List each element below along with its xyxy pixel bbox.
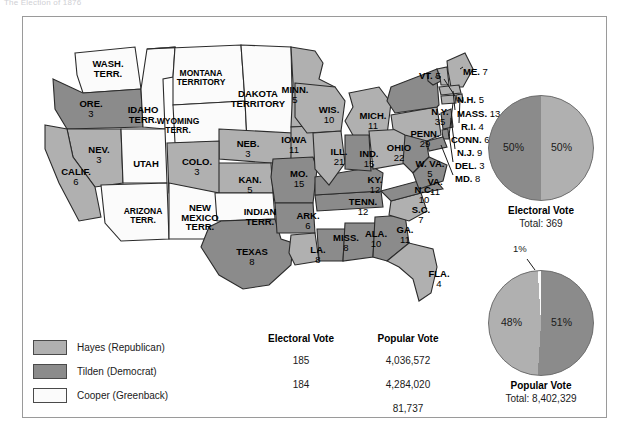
cell-popular-vote: 4,284,020 xyxy=(349,379,467,403)
state-shape-washington-territory xyxy=(75,47,141,93)
map-shapes: .s{stroke:#2b2b2b;stroke-width:1.1;} .ha… xyxy=(23,17,493,312)
pie-title-popular: Popular Vote xyxy=(485,380,597,391)
figure-caption: The Election of 1876 xyxy=(4,0,81,7)
pie-slice-label-tilden-electoral: 50% xyxy=(551,141,572,153)
table-row: 1844,284,020 xyxy=(253,379,473,403)
cell-electoral-vote: 184 xyxy=(253,379,349,403)
table-header-row: Electoral Vote Popular Vote xyxy=(253,333,473,355)
state-shape-mississippi xyxy=(317,229,345,261)
legend-item-hayes: Hayes (Republican) xyxy=(33,335,253,359)
state-shape-indiana xyxy=(345,135,371,171)
pie-chart-electoral-vote: 50% 50% Electoral Vote Total: 369 xyxy=(485,95,597,229)
pie-disc-popular: 48% 51% xyxy=(488,270,594,376)
state-shape-wisconsin xyxy=(295,83,345,133)
state-shape-idaho-territory xyxy=(141,47,175,129)
column-header-electoral-vote: Electoral Vote xyxy=(253,333,349,355)
pie-chart-popular-vote: 1% 48% 51% Popular Vote Total: 8,402,329 xyxy=(485,257,597,404)
state-shape-arkansas xyxy=(275,203,315,233)
state-shape-utah xyxy=(121,129,167,183)
state-shape-missouri xyxy=(271,157,317,203)
pie-slice-label-hayes-popular: 48% xyxy=(501,316,522,328)
pie-disc-electoral: 50% 50% xyxy=(488,95,594,201)
pie-title-electoral: Electoral Vote xyxy=(485,205,597,216)
cell-electoral-vote: 185 xyxy=(253,355,349,379)
legend-label-tilden: Tilden (Democrat) xyxy=(77,366,157,377)
state-shape-arizona-territory xyxy=(101,183,169,241)
figure-frame: .s{stroke:#2b2b2b;stroke-width:1.1;} .ha… xyxy=(22,16,607,418)
cell-popular-vote: 4,036,572 xyxy=(349,355,467,379)
legend-swatch-tilden xyxy=(33,364,67,379)
vote-results-table: Electoral Vote Popular Vote 1854,036,572… xyxy=(253,333,473,427)
pie-slice-label-hayes-electoral: 50% xyxy=(503,141,524,153)
cell-popular-vote: 81,737 xyxy=(349,403,467,427)
legend-label-hayes: Hayes (Republican) xyxy=(77,342,165,353)
state-shape-kansas xyxy=(213,163,273,193)
state-shape-massachusetts xyxy=(439,85,461,95)
legend-item-cooper: Cooper (Greenback) xyxy=(33,383,253,407)
state-shape-indian-territory xyxy=(215,193,275,221)
cooper-leader-line xyxy=(485,257,597,271)
legend-label-cooper: Cooper (Greenback) xyxy=(77,390,168,401)
table-row: 1854,036,572 xyxy=(253,355,473,379)
election-map: .s{stroke:#2b2b2b;stroke-width:1.1;} .ha… xyxy=(23,17,493,312)
state-shape-dakota-territory xyxy=(241,45,293,141)
cell-electoral-vote xyxy=(253,403,349,427)
state-shape-louisiana xyxy=(289,233,319,265)
legend-swatch-hayes xyxy=(33,340,67,355)
pie-total-electoral: Total: 369 xyxy=(485,218,597,229)
pie-total-popular: Total: 8,402,329 xyxy=(485,393,597,404)
state-shape-ohio xyxy=(369,129,407,169)
state-shape-maine xyxy=(447,53,473,87)
pie-slice-label-tilden-popular: 51% xyxy=(551,316,572,328)
pie-slice-label-cooper-popular: 1% xyxy=(513,243,527,254)
column-header-popular-vote: Popular Vote xyxy=(349,333,467,355)
table-row: 81,737 xyxy=(253,403,473,427)
legend-swatch-cooper xyxy=(33,388,67,403)
state-shape-alabama xyxy=(343,223,375,261)
map-legend: Hayes (Republican)Tilden (Democrat)Coope… xyxy=(33,335,253,407)
table-body: 1854,036,5721844,284,02081,737 xyxy=(253,355,473,427)
legend-item-tilden: Tilden (Democrat) xyxy=(33,359,253,383)
state-shape-nebraska xyxy=(219,129,293,163)
